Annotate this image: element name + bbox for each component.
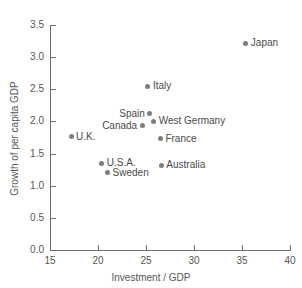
x-tick-label: 40 [270, 256, 302, 266]
data-point-label: Japan [251, 38, 278, 48]
data-point-label: Spain [119, 109, 145, 119]
y-tick-label: 2.5 [0, 84, 44, 94]
y-tick-label: 3.0 [0, 52, 44, 62]
scatter-chart-figure: 0.00.51.01.52.02.53.03.5 152025303540 In… [0, 0, 302, 288]
data-point [69, 134, 74, 139]
y-tick-label: 1.5 [0, 149, 44, 159]
y-tick-label: 1.0 [0, 181, 44, 191]
data-point-label: Australia [166, 160, 205, 170]
y-tick-label: 0.0 [0, 245, 44, 255]
data-point [159, 163, 164, 168]
x-tick-mark [290, 245, 291, 250]
data-point-label: Canada [102, 121, 137, 131]
x-tick-label: 20 [78, 256, 118, 266]
data-point [243, 41, 248, 46]
data-point-label: Sweden [113, 168, 149, 178]
x-axis-line [50, 250, 291, 251]
data-point-label: France [165, 134, 196, 144]
x-axis-label: Investment / GDP [0, 272, 302, 283]
x-tick-label: 35 [222, 256, 262, 266]
x-tick-label: 30 [174, 256, 214, 266]
y-axis-label: Growth of per capita GDP [9, 64, 20, 214]
y-tick-label: 0.5 [0, 213, 44, 223]
y-tick-label: 2.0 [0, 116, 44, 126]
data-point-label: West Germany [159, 116, 226, 126]
data-point-label: U.K. [76, 132, 95, 142]
x-tick-label: 25 [126, 256, 166, 266]
y-tick-label: 3.5 [0, 20, 44, 30]
data-point-label: Italy [153, 81, 171, 91]
x-tick-label: 15 [30, 256, 70, 266]
y-tick-mark [51, 250, 56, 251]
